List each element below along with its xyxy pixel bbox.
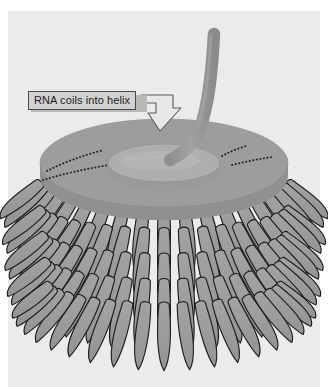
annotation-label: RNA coils into helix xyxy=(28,91,136,110)
protein-subunit-lobe xyxy=(158,302,171,371)
figure-page: RNA coils into helix xyxy=(0,0,328,387)
disc-central-channel xyxy=(108,144,220,191)
tmv-assembly-diagram xyxy=(0,0,328,387)
